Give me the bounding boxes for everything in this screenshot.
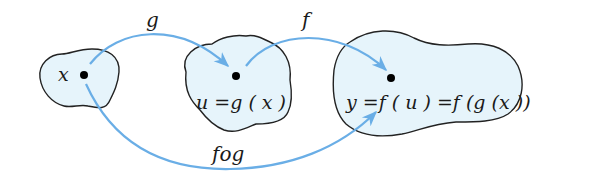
diagram-canvas: x u =g ( x ) y =f ( u ) =f (g (x )) g f …	[0, 0, 598, 188]
set-y-blob	[333, 31, 522, 136]
set-u-blob	[185, 35, 292, 131]
point-y-dot	[387, 74, 395, 82]
point-y-label: y =f ( u ) =f (g (x ))	[345, 91, 531, 113]
composition-diagram: x u =g ( x ) y =f ( u ) =f (g (x )) g f …	[0, 0, 598, 188]
arrow-fog-label: fog	[210, 142, 244, 166]
point-u-dot	[232, 72, 240, 80]
point-x-label: x	[58, 63, 69, 85]
point-x-dot	[80, 71, 88, 79]
point-u-label: u =g ( x )	[196, 91, 286, 113]
arrow-g-label: g	[146, 8, 159, 32]
set-x-blob	[40, 49, 119, 108]
arrow-f-label: f	[300, 8, 313, 32]
